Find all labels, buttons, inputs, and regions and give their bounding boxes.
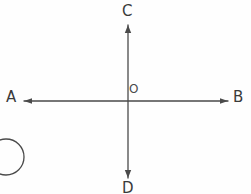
point-label-a: A (6, 90, 17, 105)
point-label-o: O (129, 83, 139, 95)
point-label-b: B (233, 90, 244, 105)
arrowhead-right-icon (220, 98, 228, 104)
circled-item-marker (0, 139, 24, 175)
point-label-d: D (122, 181, 134, 194)
geometry-figure (0, 0, 251, 194)
point-label-c: C (122, 4, 133, 19)
arrowhead-down-icon (125, 170, 131, 178)
diagram-canvas: C D A B O (0, 0, 251, 194)
arrowhead-up-icon (125, 25, 131, 33)
horizontal-line-AB (24, 98, 228, 104)
arrowhead-left-icon (24, 98, 32, 104)
